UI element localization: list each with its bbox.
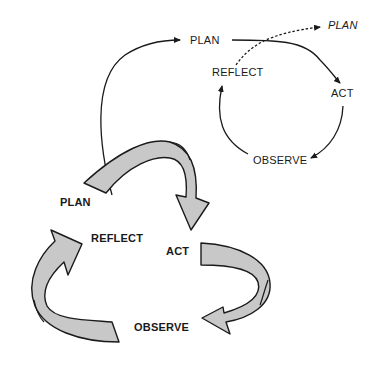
- lower-reflect-label: REFLECT: [91, 233, 143, 244]
- lower-act-to-observe-block-arrow: [201, 243, 270, 334]
- upper-observe-label: OBSERVE: [253, 155, 307, 166]
- diagram-canvas: [0, 0, 377, 367]
- upper-plan-label: PLAN: [190, 35, 220, 46]
- lower-plan-to-act-block-arrow: [84, 141, 209, 230]
- lower-observe-to-reflect-block-arrow: [32, 230, 119, 342]
- upper-reflect-label: REFLECT: [212, 67, 264, 78]
- next-plan-label: PLAN: [328, 20, 358, 31]
- upper-act-label: ACT: [331, 88, 354, 99]
- lower-observe-label: OBSERVE: [134, 322, 189, 333]
- upper-observe-to-reflect-arrow: [219, 86, 248, 154]
- upper-act-to-observe-arrow: [311, 106, 343, 158]
- lower-plan-label: PLAN: [60, 197, 91, 208]
- upper-reflect-to-next-plan-arrow: [236, 27, 320, 65]
- lower-act-label: ACT: [166, 246, 189, 257]
